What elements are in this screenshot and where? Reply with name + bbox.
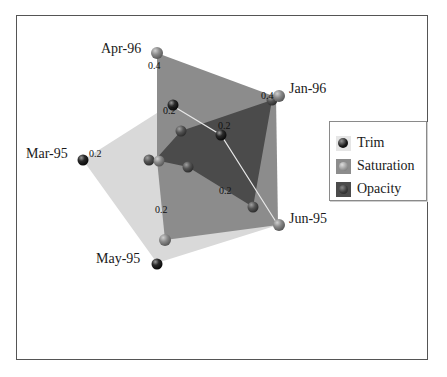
legend-label-opacity: Opacity (357, 181, 401, 197)
axis-label-jan96: Jan-96 (289, 81, 326, 97)
legend: Trim Saturation Opacity (329, 121, 427, 201)
legend-item-trim[interactable]: Trim (336, 133, 385, 153)
axis-label-jun95: Jun-95 (289, 211, 327, 227)
value-label: 0.2 (218, 120, 231, 131)
opacity-marker (248, 202, 259, 213)
axis-label-apr96: Apr-96 (101, 41, 141, 57)
axis-label-may95: May-95 (96, 251, 140, 267)
opacity-sphere-icon (336, 182, 351, 197)
legend-item-opacity[interactable]: Opacity (336, 179, 401, 199)
value-label: 0.2 (89, 148, 102, 159)
legend-label-saturation: Saturation (357, 158, 415, 174)
saturation-marker (151, 47, 163, 59)
value-label: 0.4 (148, 60, 161, 71)
opacity-marker (176, 126, 187, 137)
value-label: 0.2 (219, 185, 232, 196)
saturation-sphere-icon (336, 159, 351, 174)
trim-marker (78, 155, 89, 166)
saturation-marker (154, 156, 165, 167)
saturation-marker (273, 90, 285, 102)
trim-marker (216, 130, 227, 141)
axis-label-mar95: Mar-95 (26, 146, 68, 162)
trim-sphere-icon (336, 136, 351, 151)
saturation-marker (159, 234, 171, 246)
value-label: 0.2 (155, 204, 168, 215)
legend-label-trim: Trim (357, 135, 385, 151)
saturation-marker (273, 219, 285, 231)
opacity-marker (144, 155, 155, 166)
opacity-marker (183, 162, 194, 173)
value-label: 0.2 (163, 105, 176, 116)
value-label: 0.4 (261, 90, 274, 101)
legend-item-saturation[interactable]: Saturation (336, 156, 415, 176)
trim-marker (152, 259, 163, 270)
